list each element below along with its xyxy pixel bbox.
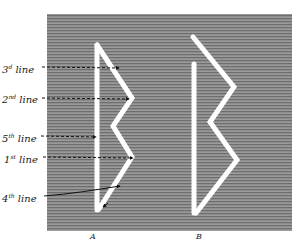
- label-second-line: 2nd line: [2, 92, 38, 105]
- caption-a: A: [90, 233, 96, 241]
- label-third-line: 3d line: [2, 62, 34, 75]
- label-first-line: 1st line: [4, 152, 38, 165]
- caption-b: B: [196, 233, 202, 241]
- figure-canvas: [0, 0, 302, 243]
- figure: 3d line 2nd line 5th line 1st line 4th l…: [0, 0, 302, 243]
- label-fourth-line: 4th line: [2, 191, 37, 204]
- label-fifth-line: 5th line: [2, 131, 37, 144]
- hatched-panel: [47, 14, 292, 231]
